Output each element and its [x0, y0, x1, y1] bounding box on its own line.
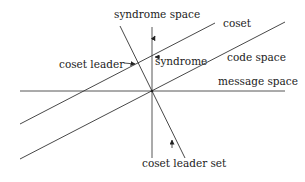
coding-spaces-diagram: syndrome space coset code space message …	[0, 0, 305, 182]
label-syndrome: syndrome	[155, 55, 207, 67]
origin-point	[151, 90, 154, 93]
label-coset: coset	[223, 17, 252, 29]
label-coset-leader: coset leader	[59, 58, 125, 70]
coset-leader-arrow-icon	[124, 63, 135, 64]
label-syndrome-space: syndrome space	[114, 8, 200, 20]
label-coset-leader-set: coset leader set	[142, 157, 227, 169]
vertical-axis-arrow-icon	[153, 36, 155, 40]
label-message-space: message space	[218, 75, 298, 87]
label-code-space: code space	[227, 51, 286, 63]
